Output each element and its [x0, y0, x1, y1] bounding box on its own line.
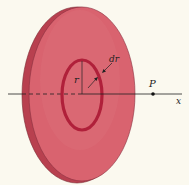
point-p-dot — [151, 92, 155, 96]
dr-label: dr — [109, 54, 120, 64]
charged-disc-diagram: r dr P x — [0, 0, 189, 185]
x-axis-label: x — [176, 96, 181, 106]
point-p-label: P — [148, 78, 156, 89]
